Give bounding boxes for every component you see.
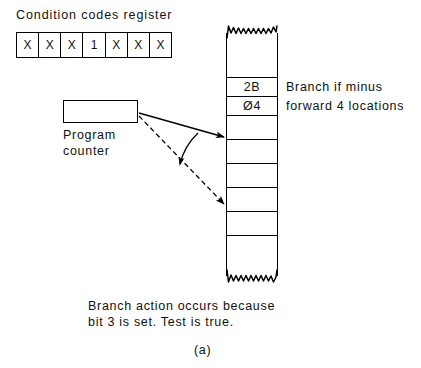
memory-torn-edge-bottom — [227, 270, 277, 282]
branch-displacement-arc — [180, 133, 198, 164]
memory-torn-edge-top — [227, 26, 277, 38]
figure-canvas: Condition codes register X X X 1 X X X 2… — [0, 0, 421, 368]
pc-current-pointer-arrow — [139, 113, 224, 137]
diagram-vector-layer — [0, 0, 421, 368]
